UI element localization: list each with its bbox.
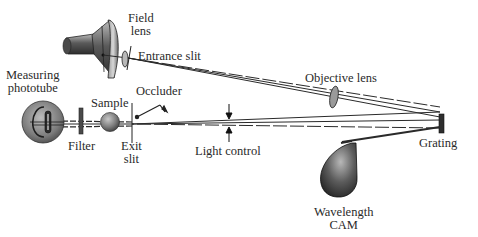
exit-slit-label: Exit slit — [121, 140, 142, 166]
filter-label: Filter — [68, 140, 95, 153]
wavelength-cam-label-line2: CAM — [314, 219, 373, 232]
objective-lens-label: Objective lens — [305, 72, 377, 85]
grating-label: Grating — [419, 137, 457, 150]
objective-lens-icon — [328, 85, 340, 108]
phototube-icon — [22, 101, 64, 143]
measuring-phototube-label-line2: phototube — [6, 82, 59, 95]
entrance-slit-label: Entrance slit — [138, 50, 201, 63]
lamp-housing-icon — [63, 20, 128, 78]
optical-path-drawing — [0, 0, 478, 237]
measuring-phototube-label: Measuring phototube — [6, 69, 59, 95]
wavelength-cam-label: Wavelength CAM — [314, 206, 373, 232]
sample-sphere-icon — [101, 113, 120, 132]
field-lens-label-line2: lens — [128, 25, 154, 38]
light-control-label: Light control — [195, 145, 261, 158]
exit-beam — [60, 121, 132, 127]
field-lens-label: Field lens — [128, 12, 154, 38]
exit-slit-label-line2: slit — [121, 153, 142, 166]
occluder-label: Occluder — [136, 85, 182, 98]
lower-light-beam — [132, 112, 440, 128]
sample-label: Sample — [91, 97, 129, 110]
filter-icon — [79, 108, 83, 134]
occluder-icon — [135, 105, 167, 119]
field-lens-icon — [122, 51, 128, 67]
grating-icon — [439, 114, 444, 133]
spectrophotometer-diagram: Field lens Entrance slit Measuring photo… — [0, 0, 478, 237]
